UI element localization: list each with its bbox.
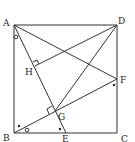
label-d: D	[118, 16, 125, 26]
dot-mark-f	[113, 84, 115, 86]
dot-mark-e	[59, 128, 61, 130]
label-b: B	[3, 133, 10, 142]
right-angle-mark-h	[33, 60, 39, 64]
label-f: F	[120, 75, 126, 85]
label-e: E	[62, 134, 69, 142]
segment-dh	[35, 25, 117, 66]
geometry-diagram: A D B C E F G H	[0, 0, 135, 142]
segment-dg	[55, 25, 117, 111]
label-g: G	[58, 112, 65, 122]
label-h: H	[25, 67, 33, 77]
dot-mark-b	[18, 125, 20, 127]
label-c: C	[121, 134, 128, 142]
label-a: A	[2, 18, 10, 28]
angle-mark-b	[25, 128, 29, 132]
angle-mark-a	[14, 35, 18, 39]
right-angle-mark-g	[47, 106, 52, 114]
segment-bf	[14, 79, 117, 133]
